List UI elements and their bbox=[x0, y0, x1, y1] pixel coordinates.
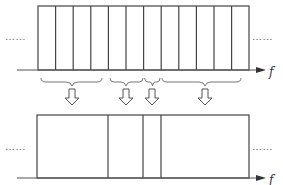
brace-group-3 bbox=[145, 78, 161, 86]
top-axis-label: f bbox=[268, 65, 276, 79]
down-arrow-icon bbox=[65, 89, 79, 105]
frequency-aggregation-diagram: f …… …… f …… …… bbox=[0, 0, 283, 185]
top-axis-arrowhead-icon bbox=[256, 67, 266, 73]
down-arrow-icon bbox=[198, 89, 212, 105]
brace-group-4 bbox=[162, 78, 241, 86]
down-arrow-icon bbox=[145, 89, 159, 105]
brace-group-1 bbox=[41, 78, 102, 86]
bottom-spectrum: f …… …… bbox=[5, 115, 276, 185]
bottom-right-ellipsis: …… bbox=[252, 141, 273, 152]
grouping-braces bbox=[41, 78, 241, 86]
top-spectrum: f …… …… bbox=[5, 6, 276, 79]
top-right-ellipsis: …… bbox=[252, 31, 273, 42]
bottom-axis-label: f bbox=[268, 173, 276, 185]
bottom-axis-arrowhead-icon bbox=[256, 175, 266, 181]
top-left-ellipsis: …… bbox=[5, 31, 26, 42]
brace-group-2 bbox=[110, 78, 143, 86]
bottom-left-ellipsis: …… bbox=[5, 141, 26, 152]
top-slot-dividers bbox=[56, 6, 232, 70]
mapping-arrows bbox=[65, 89, 212, 105]
down-arrow-icon bbox=[119, 89, 133, 105]
